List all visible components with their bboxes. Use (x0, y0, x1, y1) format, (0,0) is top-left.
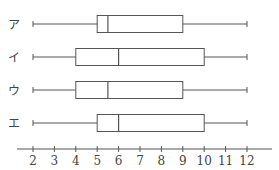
x-tick-label: 5 (93, 154, 101, 168)
x-tick-label: 9 (179, 154, 187, 168)
x-tick-label: 6 (115, 154, 123, 168)
boxplot-chart: 23456789101112 (0, 0, 279, 170)
x-tick-label: 12 (239, 154, 254, 168)
x-tick-label: 7 (136, 154, 144, 168)
x-tick-label: 11 (218, 154, 233, 168)
category-label: ア (8, 15, 20, 32)
box-2 (33, 49, 247, 66)
category-label: エ (8, 114, 20, 131)
x-tick-label: 2 (29, 154, 37, 168)
x-tick-label: 10 (197, 154, 212, 168)
category-label: ウ (8, 81, 20, 98)
x-tick-label: 4 (72, 154, 80, 168)
x-tick-label: 3 (51, 154, 59, 168)
box-4 (33, 115, 247, 132)
x-tick-label: 8 (158, 154, 166, 168)
category-label: イ (8, 48, 20, 65)
box-1 (33, 16, 247, 33)
box-3 (33, 82, 247, 99)
